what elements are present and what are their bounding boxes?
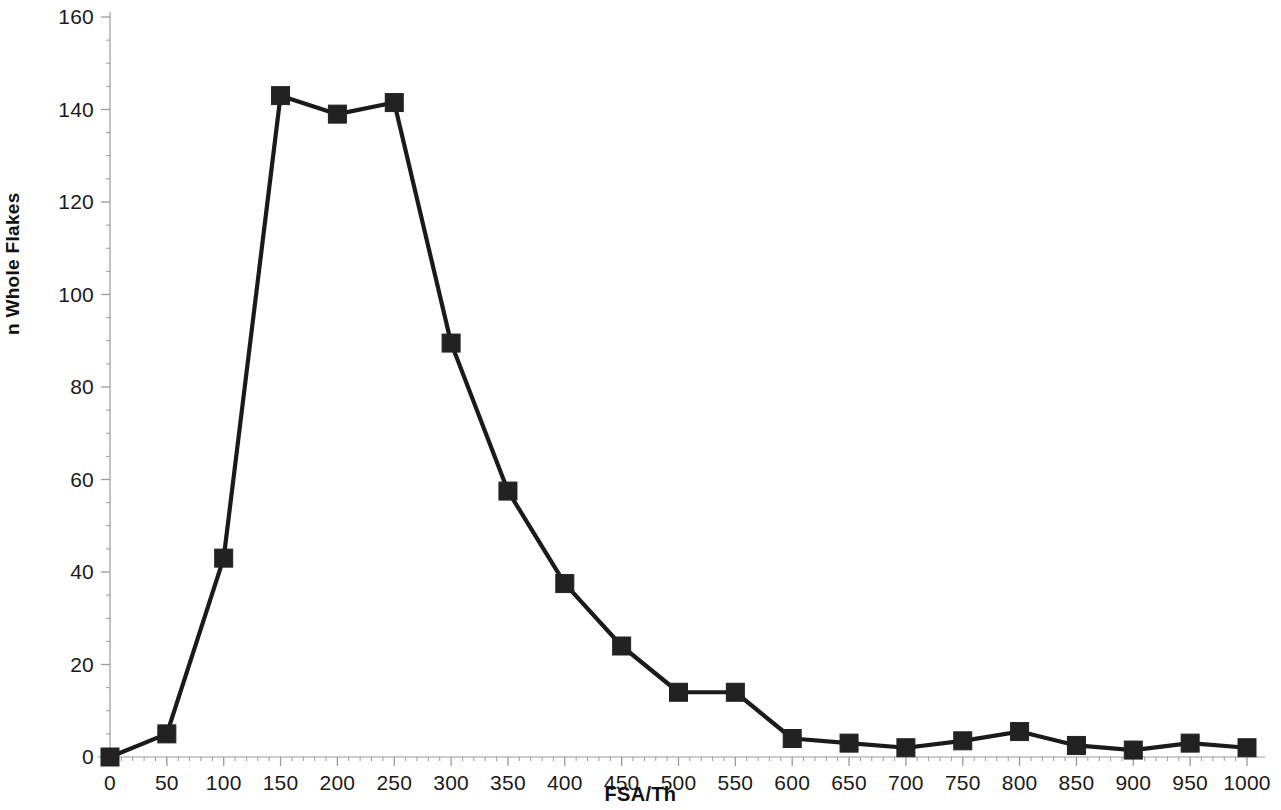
x-axis-title: FSA/Th [0, 783, 1281, 806]
y-tick-label: 20 [20, 653, 94, 677]
y-tick-label: 0 [20, 745, 94, 769]
y-axis-title: n Whole Flakes [2, 305, 24, 335]
y-tick-label: 160 [20, 5, 94, 29]
y-tick-label: 100 [20, 283, 94, 307]
data-markers [101, 87, 1256, 766]
y-tick-label: 40 [20, 560, 94, 584]
data-line [110, 96, 1247, 757]
plot-area [0, 0, 1281, 810]
y-tick-label: 140 [20, 98, 94, 122]
y-tick-label: 80 [20, 375, 94, 399]
chart-figure: 020406080100120140160 050100150200250300… [0, 0, 1281, 810]
y-tick-label: 60 [20, 468, 94, 492]
axis-lines [98, 12, 1265, 757]
axis-ticks [101, 17, 1247, 766]
y-tick-label: 120 [20, 190, 94, 214]
